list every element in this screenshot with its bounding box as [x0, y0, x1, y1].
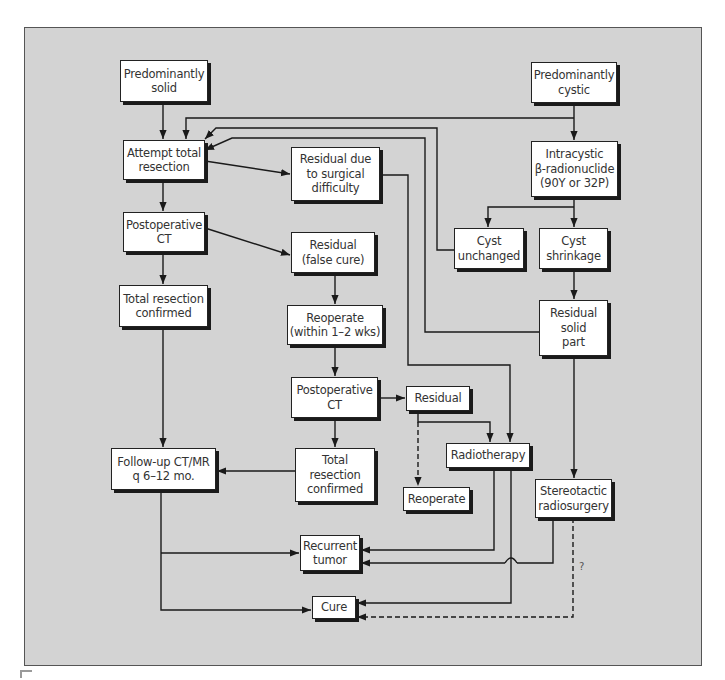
- node-residual: Residual: [406, 386, 470, 411]
- node-residual-solid-part: Residual solid part: [539, 300, 608, 356]
- node-radiotherapy: Radiotherapy: [446, 443, 530, 468]
- node-cyst-unchanged: Cyst unchanged: [454, 228, 524, 269]
- node-attempt-total-resection: Attempt total resection: [123, 140, 205, 180]
- node-residual-false-cure: Residual (false cure): [291, 232, 375, 273]
- node-postoperative-ct-2: Postoperative CT: [291, 377, 378, 418]
- node-cyst-shrinkage: Cyst shrinkage: [539, 228, 608, 269]
- node-recurrent-tumor: Recurrent tumor: [300, 535, 360, 571]
- node-total-resection-confirmed-1: Total resection confirmed: [119, 285, 208, 327]
- figure-corner-mark: [20, 670, 32, 678]
- node-followup-ct-mr: Follow-up CT/MR q 6–12 mo.: [111, 448, 216, 490]
- node-intracystic-radionuclide: Intracystic β-radionuclide (90Y or 32P): [531, 141, 618, 197]
- node-postoperative-ct-1: Postoperative CT: [123, 212, 205, 252]
- node-residual-surgical-difficulty: Residual due to surgical difficulty: [291, 147, 380, 201]
- node-cure: Cure: [312, 596, 356, 619]
- node-stereotactic-radiosurgery: Stereotactic radiosurgery: [535, 479, 612, 518]
- node-predominantly-solid: Predominantly solid: [120, 60, 208, 102]
- uncertain-question-mark: ?: [579, 561, 584, 572]
- node-reoperate: Reoperate: [403, 487, 470, 511]
- node-total-resection-confirmed-2: Total resection confirmed: [295, 448, 375, 502]
- node-predominantly-cystic: Predominantly cystic: [531, 62, 617, 103]
- node-reoperate-within-1-2-wks: Reoperate (within 1–2 wks): [287, 305, 383, 345]
